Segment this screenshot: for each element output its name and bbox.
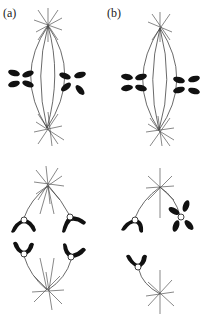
chromosome-icon	[13, 242, 34, 257]
spindle-fibers	[24, 186, 70, 218]
spindle-pole-aster-icon	[146, 116, 174, 146]
spindle-pole-aster-icon	[34, 112, 64, 146]
spindle-pole-aster-icon	[34, 166, 64, 204]
chromosome-icon	[62, 214, 86, 233]
chromosome-icon	[121, 217, 143, 233]
spindle-pole-aster-icon	[32, 272, 64, 310]
spindle-pole-aster-icon	[34, 8, 62, 42]
chromosome-icon	[126, 255, 147, 270]
chromosome-icon	[11, 217, 36, 233]
panel-a-metaphase	[7, 8, 86, 146]
panel-b-anaphase	[121, 168, 195, 314]
panel-b-metaphase	[121, 12, 201, 146]
spindle-pole-aster-icon	[148, 12, 172, 42]
chromosome-icon	[121, 73, 148, 93]
panel-a-anaphase	[11, 166, 86, 310]
spindle-pole-aster-icon	[146, 270, 174, 314]
mitosis-diagram	[0, 0, 204, 317]
chromosome-icon	[63, 243, 86, 260]
spindle-fibers	[143, 28, 177, 130]
spindle-fibers	[24, 256, 71, 290]
chromosome-icon	[167, 199, 195, 232]
